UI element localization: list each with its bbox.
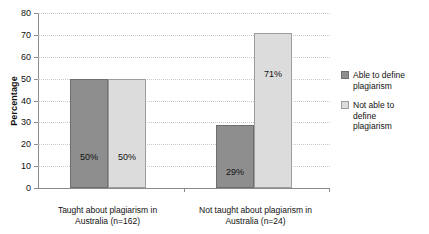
tick-label-10: 10 bbox=[4, 166, 31, 167]
tick-mark-20 bbox=[34, 144, 38, 145]
bar-value-label: 50% bbox=[71, 152, 107, 162]
legend-label-able-line1: Able to define bbox=[353, 70, 429, 81]
bar-value-label: 71% bbox=[255, 69, 291, 79]
tick-mark-80 bbox=[34, 13, 38, 14]
x-category-label-2-line1: Not taught about plagiarism in bbox=[168, 205, 343, 216]
tick-mark-0 bbox=[34, 188, 38, 189]
legend-label-not-able-line2: define bbox=[353, 111, 429, 122]
legend-label-not-able: Not able to define plagiarism bbox=[353, 100, 429, 132]
legend: Able to define plagiarism Not able to de… bbox=[341, 70, 429, 141]
plot-area: 80 70 60 50 40 30 20 10 0 50% 50% bbox=[38, 13, 330, 188]
bar-value-label: 50% bbox=[109, 152, 145, 162]
tick-mark-30 bbox=[34, 122, 38, 123]
legend-swatch-icon bbox=[341, 101, 349, 109]
bar-chart: Percentage 80 70 60 50 40 30 20 10 0 bbox=[0, 0, 429, 234]
tick-label-80: 80 bbox=[4, 13, 31, 14]
tick-mark-60 bbox=[34, 57, 38, 58]
legend-label-able: Able to define plagiarism bbox=[353, 70, 429, 91]
tick-label-60: 60 bbox=[4, 57, 31, 58]
legend-item-not-able[interactable]: Not able to define plagiarism bbox=[341, 100, 429, 132]
tick-label-50: 50 bbox=[4, 79, 31, 80]
legend-item-able[interactable]: Able to define plagiarism bbox=[341, 70, 429, 91]
x-axis-tick-end bbox=[329, 188, 330, 192]
tick-label-0: 0 bbox=[4, 188, 31, 189]
legend-label-able-line2: plagiarism bbox=[353, 81, 429, 92]
bar-not-taught-not-able[interactable]: 71% bbox=[254, 33, 292, 188]
legend-label-not-able-line1: Not able to bbox=[353, 100, 429, 111]
x-category-label-2: Not taught about plagiarism in Australia… bbox=[168, 205, 343, 227]
tick-label-40: 40 bbox=[4, 101, 31, 102]
bar-not-taught-able[interactable]: 29% bbox=[216, 125, 254, 188]
bar-taught-able[interactable]: 50% bbox=[70, 79, 108, 188]
tick-label-20: 20 bbox=[4, 144, 31, 145]
tick-mark-40 bbox=[34, 101, 38, 102]
tick-mark-10 bbox=[34, 166, 38, 167]
tick-label-30: 30 bbox=[4, 122, 31, 123]
tick-mark-70 bbox=[34, 35, 38, 36]
x-category-label-2-line2: Australia (n=24) bbox=[168, 216, 343, 227]
gridline-80 bbox=[38, 13, 330, 15]
bar-value-label: 29% bbox=[217, 167, 253, 177]
legend-swatch-icon bbox=[341, 71, 349, 79]
tick-label-70: 70 bbox=[4, 35, 31, 36]
legend-label-not-able-line3: plagiarism bbox=[353, 121, 429, 132]
tick-mark-50 bbox=[34, 79, 38, 80]
bar-taught-not-able[interactable]: 50% bbox=[108, 79, 146, 188]
x-axis-tick-mid bbox=[184, 188, 185, 192]
